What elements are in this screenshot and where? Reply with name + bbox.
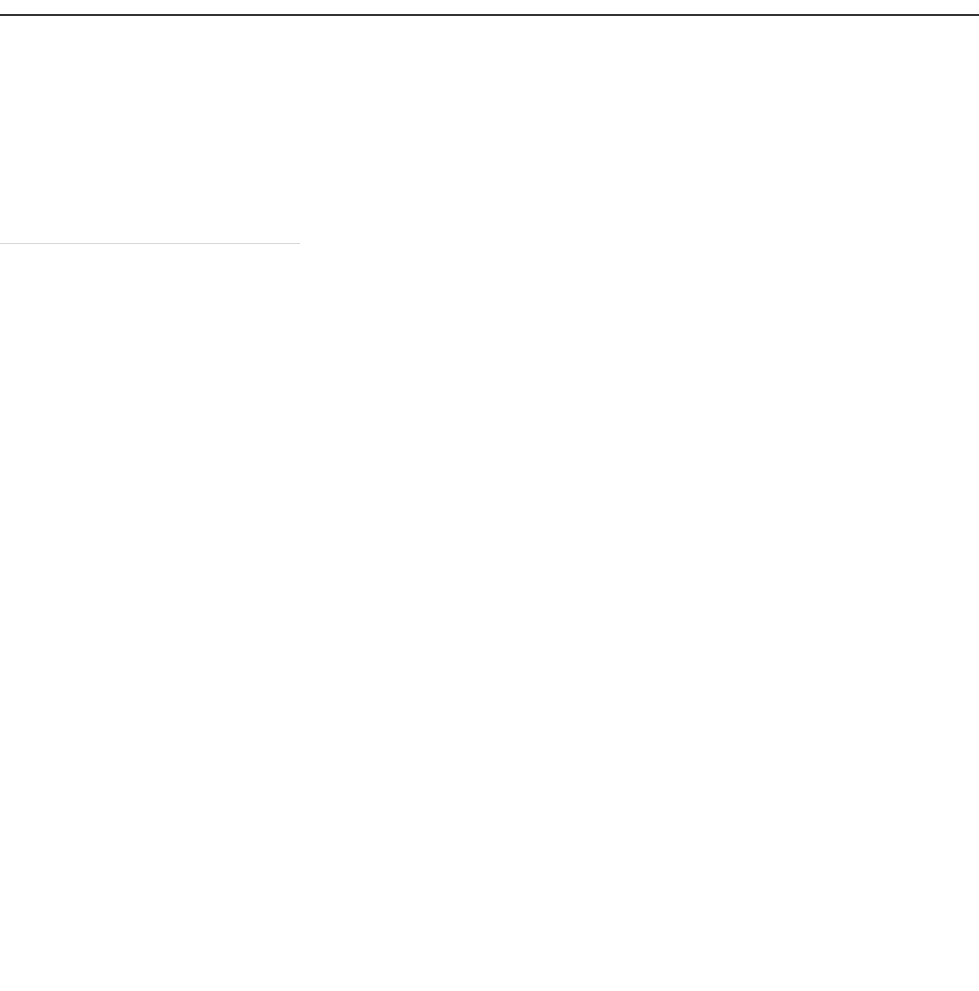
star-chart <box>0 0 979 991</box>
